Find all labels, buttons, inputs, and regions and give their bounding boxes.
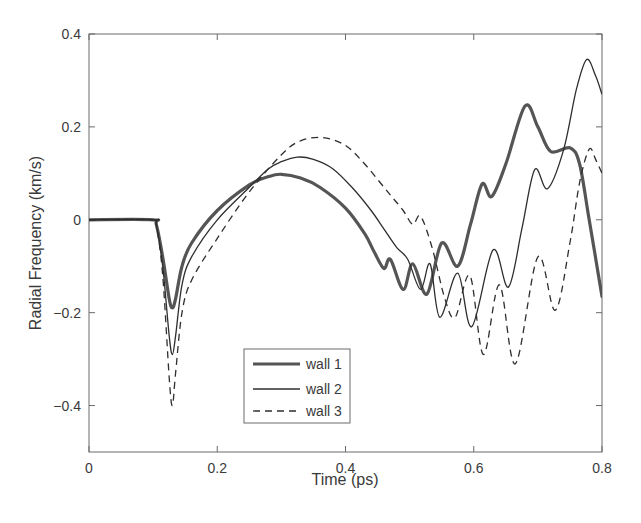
line-chart: 00.20.40.60.80.40.20−0.2−0.4 Time (ps) R… [0, 0, 641, 523]
x-axis-label: Time (ps) [312, 471, 379, 488]
y-axis-label: Radial Frequency (km/s) [27, 156, 44, 330]
legend-label-wall-1: wall 1 [305, 356, 342, 372]
legend: wall 1 wall 2 wall 3 [244, 349, 350, 423]
y-tick-label: −0.2 [53, 305, 81, 321]
y-tick-label: 0 [73, 212, 81, 228]
x-tick-label: 0 [85, 460, 93, 476]
legend-label-wall-2: wall 2 [305, 381, 342, 397]
y-tick-label: 0.2 [62, 119, 82, 135]
legend-label-wall-3: wall 3 [305, 403, 342, 419]
x-tick-label: 0.6 [464, 460, 484, 476]
x-tick-label: 0.8 [592, 460, 612, 476]
y-tick-label: −0.4 [53, 398, 81, 414]
y-tick-label: 0.4 [62, 26, 82, 42]
x-tick-label: 0.2 [208, 460, 228, 476]
